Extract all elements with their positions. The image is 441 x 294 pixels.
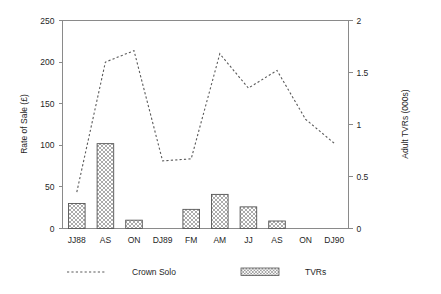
right-tick-label: 0.5	[357, 172, 369, 182]
right-tick-label: 1	[357, 120, 362, 130]
x-label-JJ88: JJ88	[68, 235, 86, 245]
legend-label-crown-solo: Crown Solo	[132, 267, 176, 277]
bar-ON	[126, 220, 143, 228]
right-axis-ticks: 00.511.52	[349, 16, 369, 234]
crown-solo-polyline	[77, 51, 334, 192]
legend-label-tvrs: TVRs	[305, 267, 326, 277]
left-axis-ticks: 050100150200250	[40, 16, 62, 234]
left-tick-label: 150	[40, 99, 54, 109]
chart-legend: Crown Solo TVRs	[67, 267, 326, 277]
x-axis-category-labels: JJ88ASONDJ89FMAMJJASONDJ90	[68, 235, 345, 245]
left-tick-label: 50	[45, 182, 55, 192]
x-label-JJ: JJ	[244, 235, 253, 245]
left-tick-label: 0	[50, 224, 55, 234]
bar-JJ	[240, 207, 257, 229]
chart-figure: 050100150200250 00.511.52 JJ88ASONDJ89FM…	[0, 0, 441, 294]
x-label-ON: ON	[299, 235, 312, 245]
right-axis-title: Adult TVRs (000s)	[400, 89, 410, 158]
x-label-FM: FM	[185, 235, 197, 245]
right-tick-label: 2	[357, 16, 362, 26]
right-tick-label: 0	[357, 224, 362, 234]
bar-series-tvrs	[69, 144, 286, 229]
x-label-AS: AS	[271, 235, 283, 245]
right-tick-label: 1.5	[357, 68, 369, 78]
bar-AM	[212, 194, 229, 228]
crosshatch-swatch	[241, 268, 279, 276]
x-label-AM: AM	[213, 235, 226, 245]
bar-AS	[97, 144, 114, 229]
chart-canvas: 050100150200250 00.511.52 JJ88ASONDJ89FM…	[0, 0, 441, 294]
x-label-AS: AS	[100, 235, 112, 245]
x-label-ON: ON	[128, 235, 141, 245]
left-tick-label: 100	[40, 140, 54, 150]
x-label-DJ90: DJ90	[324, 235, 344, 245]
x-label-DJ89: DJ89	[153, 235, 173, 245]
bar-FM	[183, 209, 200, 228]
left-tick-label: 250	[40, 16, 54, 26]
legend-item-tvrs: TVRs	[241, 267, 326, 277]
left-axis-title: Rate of Sale (£)	[19, 94, 29, 154]
bar-AS	[269, 221, 286, 228]
left-tick-label: 200	[40, 57, 54, 67]
legend-item-crown-solo: Crown Solo	[67, 267, 176, 277]
bar-JJ88	[69, 204, 86, 229]
line-series-crown-solo	[77, 51, 334, 192]
